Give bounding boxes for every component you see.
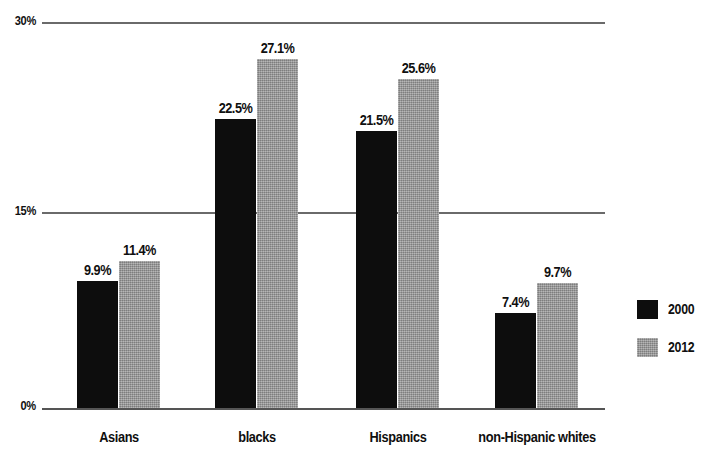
- y-axis-tick-0: 0%: [0, 398, 36, 414]
- y-axis-tick-label-0: 0%: [20, 398, 36, 413]
- grouped-bar-chart: 30% 15% 0% AsiansblacksHispanicsnon-Hisp…: [0, 0, 717, 456]
- category-label-blacks: blacks: [177, 429, 335, 445]
- value-label-hispanics-2012: 25.6%: [393, 59, 445, 76]
- value-label-asians-2000: 9.9%: [72, 261, 124, 278]
- category-label-asians: Asians: [39, 429, 197, 445]
- chart-legend: 2000 2012: [637, 298, 709, 374]
- legend-label-2000: 2000: [668, 301, 694, 317]
- category-label-hispanics: Hispanics: [318, 429, 476, 445]
- y-axis-tick-label-30: 30%: [15, 13, 36, 28]
- bar-blacks-2000: [215, 119, 256, 409]
- value-label-non-hispanic-whites-2012: 9.7%: [532, 263, 584, 280]
- bar-hispanics-2012: [398, 79, 439, 408]
- value-label-blacks-2012: 27.1%: [252, 39, 304, 56]
- legend-label-2012: 2012: [668, 339, 694, 355]
- value-label-hispanics-2000: 21.5%: [351, 111, 403, 128]
- y-axis-tick-15: 15%: [0, 203, 36, 219]
- bar-asians-2000: [77, 281, 118, 408]
- gridline-30: [42, 22, 605, 24]
- bar-blacks-2012: [257, 59, 298, 408]
- legend-item-2012: 2012: [637, 336, 709, 358]
- bar-hispanics-2000: [356, 131, 397, 408]
- bar-non-hispanic-whites-2012: [537, 283, 578, 408]
- bar-asians-2012: [119, 261, 160, 408]
- category-label-non-hispanic-whites: non-Hispanic whites: [457, 429, 615, 445]
- x-axis-baseline: [42, 408, 605, 410]
- legend-item-2000: 2000: [637, 298, 709, 320]
- value-label-blacks-2000: 22.5%: [210, 99, 262, 116]
- y-axis-tick-30: 30%: [0, 13, 36, 29]
- value-label-asians-2012: 11.4%: [114, 241, 166, 258]
- gridline-15: [42, 212, 605, 214]
- legend-swatch-2000-icon: [637, 300, 658, 319]
- legend-swatch-2012-icon: [637, 338, 658, 357]
- y-axis-tick-label-15: 15%: [15, 203, 36, 218]
- bar-non-hispanic-whites-2000: [495, 313, 536, 408]
- value-label-non-hispanic-whites-2000: 7.4%: [490, 293, 542, 310]
- plot-area: [42, 22, 605, 408]
